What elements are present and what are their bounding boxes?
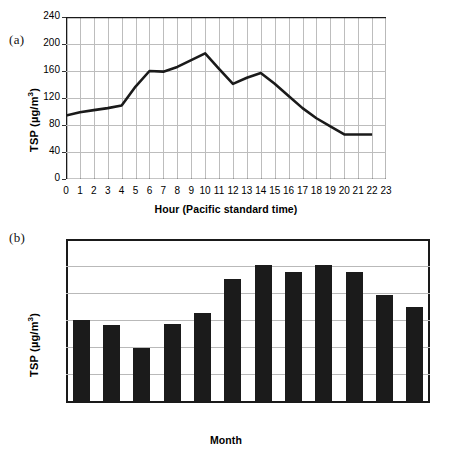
panel-b-bar bbox=[103, 325, 120, 401]
panel-b-gridline bbox=[66, 293, 430, 294]
panel-a-y-tick-label: 80 bbox=[22, 118, 60, 129]
panel-b-plot-area bbox=[66, 239, 430, 401]
panel-a-y-tick-mark bbox=[62, 98, 66, 99]
panel-a-y-tick-mark bbox=[62, 125, 66, 126]
panel-a-line-chart: (a) TSP (µg/m3) 04080120160200240 012345… bbox=[0, 0, 452, 228]
panel-b-bar bbox=[376, 295, 393, 401]
panel-b-bar bbox=[315, 265, 332, 401]
panel-b-x-axis-title: Month bbox=[0, 434, 452, 446]
panel-b-bar-chart: (b) TSP (µg/m3) 04080120160200240 JanFeb… bbox=[0, 225, 452, 457]
panel-b-bar bbox=[133, 348, 150, 401]
panel-b-bar bbox=[346, 272, 363, 401]
panel-b-axis-line bbox=[66, 401, 430, 403]
panel-b-bar bbox=[406, 307, 423, 402]
panel-b-bar bbox=[194, 313, 211, 401]
panel-a-y-tick-label: 160 bbox=[22, 64, 60, 75]
panel-a-y-tick-label: 0 bbox=[22, 172, 60, 183]
panel-a-y-tick-mark bbox=[62, 71, 66, 72]
figure-root: (a) TSP (µg/m3) 04080120160200240 012345… bbox=[0, 0, 452, 457]
panel-b-bar bbox=[255, 265, 272, 401]
panel-a-series-svg bbox=[66, 17, 386, 179]
panel-b-axis-line bbox=[66, 239, 430, 241]
panel-b-bar bbox=[285, 272, 302, 401]
panel-b-label: (b) bbox=[9, 230, 25, 246]
panel-a-y-tick-label: 240 bbox=[22, 10, 60, 21]
panel-a-plot-area bbox=[66, 17, 386, 179]
panel-a-y-tick-label: 200 bbox=[22, 37, 60, 48]
panel-a-x-tick-label: 23 bbox=[377, 185, 395, 196]
panel-b-bar bbox=[73, 320, 90, 401]
panel-a-x-axis-title: Hour (Pacific standard time) bbox=[0, 203, 452, 215]
panel-a-y-tick-label: 40 bbox=[22, 145, 60, 156]
panel-a-y-tick-mark bbox=[62, 179, 66, 180]
panel-a-y-tick-mark bbox=[62, 44, 66, 45]
panel-b-bar bbox=[164, 324, 181, 401]
panel-b-bar bbox=[224, 279, 241, 401]
panel-a-y-tick-mark bbox=[62, 17, 66, 18]
panel-a-y-tick-label: 120 bbox=[22, 91, 60, 102]
panel-a-y-tick-mark bbox=[62, 152, 66, 153]
panel-b-gridline bbox=[66, 266, 430, 267]
panel-b-y-axis-title: TSP (µg/m3) bbox=[26, 313, 40, 377]
